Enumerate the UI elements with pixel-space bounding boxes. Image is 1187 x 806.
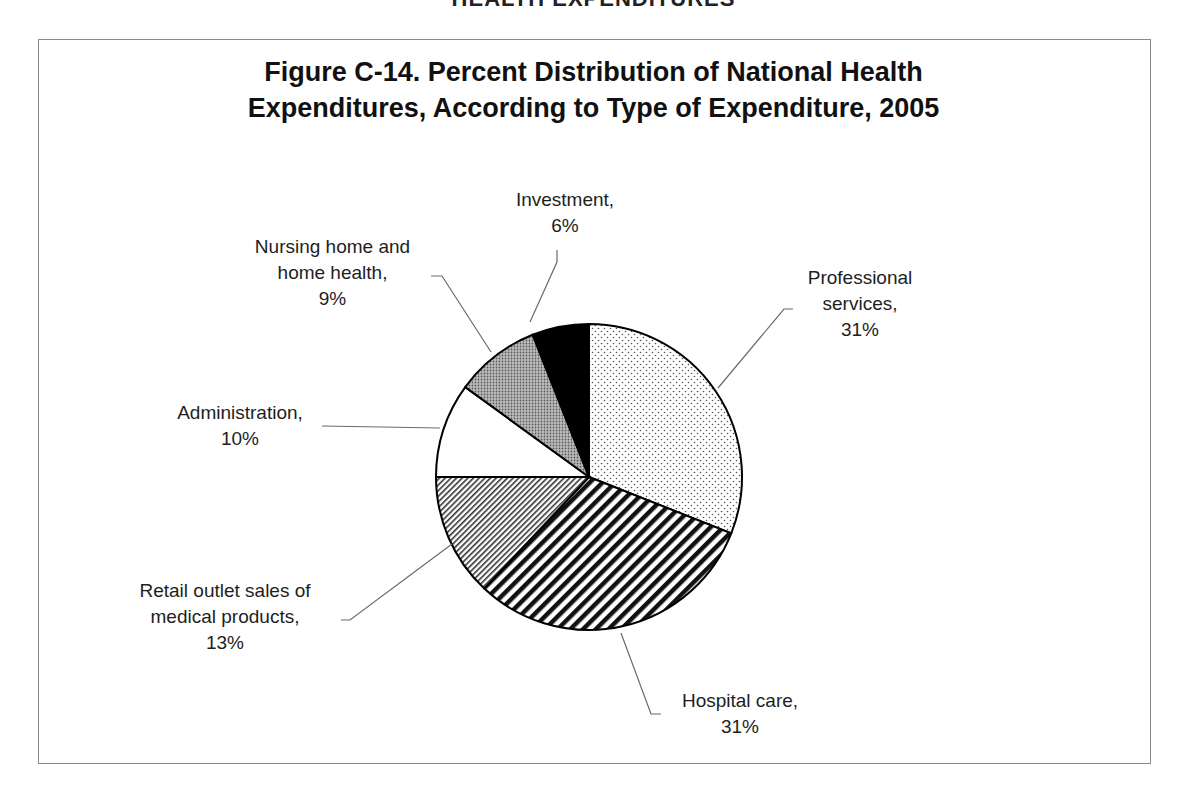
label-line: services, [780, 291, 940, 317]
leader-line-retail [341, 544, 452, 620]
leader-line-administration [322, 426, 440, 428]
label-line: medical products, [105, 604, 345, 630]
label-line: Retail outlet sales of [105, 578, 345, 604]
label-line: 9% [225, 286, 440, 312]
label-line: 31% [780, 317, 940, 343]
label-administration: Administration, 10% [150, 400, 330, 452]
leader-line-investment [530, 250, 557, 322]
leader-line-nursing [431, 276, 491, 352]
label-line: Administration, [150, 400, 330, 426]
label-investment: Investment, 6% [505, 187, 625, 239]
label-hospital-care: Hospital care, 31% [650, 688, 830, 740]
label-nursing-home: Nursing home and home health, 9% [225, 234, 440, 312]
label-line: 6% [505, 213, 625, 239]
label-retail-outlet-sales: Retail outlet sales of medical products,… [105, 578, 345, 656]
label-line: 31% [650, 714, 830, 740]
label-line: 13% [105, 630, 345, 656]
label-line: 10% [150, 426, 330, 452]
label-line: home health, [225, 260, 440, 286]
label-line: Hospital care, [650, 688, 830, 714]
label-line: Professional [780, 265, 940, 291]
label-professional-services: Professional services, 31% [780, 265, 940, 343]
label-line: Nursing home and [225, 234, 440, 260]
pie-slices [436, 324, 742, 630]
label-line: Investment, [505, 187, 625, 213]
